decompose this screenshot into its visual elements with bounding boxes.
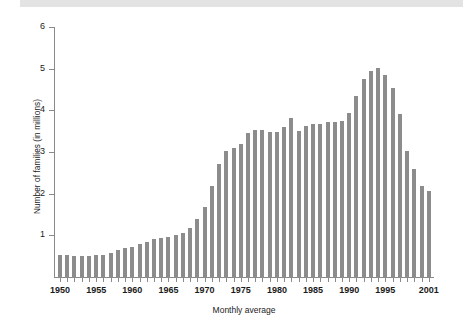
bar: [326, 122, 330, 278]
x-axis-tick-label: 1995: [365, 285, 405, 295]
bar: [282, 127, 286, 278]
x-axis-tick: [226, 278, 227, 282]
x-axis-tick-label: 1960: [112, 285, 152, 295]
bar: [166, 237, 170, 278]
bar: [246, 133, 250, 278]
bar: [123, 248, 127, 278]
x-axis-tick: [96, 278, 97, 282]
x-axis-tick: [89, 278, 90, 282]
bar: [398, 114, 402, 278]
x-axis-tick: [234, 278, 235, 282]
bar: [369, 71, 373, 279]
bar: [391, 88, 395, 278]
x-axis-tick: [255, 278, 256, 282]
x-axis-tick: [125, 278, 126, 282]
x-axis-tick: [371, 278, 372, 282]
x-axis-tick: [306, 278, 307, 282]
x-axis-tick-label: 1950: [40, 285, 80, 295]
x-axis-tick: [147, 278, 148, 282]
x-axis-tick: [197, 278, 198, 282]
x-axis-tick-label: 1970: [185, 285, 225, 295]
x-axis-tick: [82, 278, 83, 282]
x-axis-tick: [284, 278, 285, 282]
x-axis-tick: [291, 278, 292, 282]
x-axis-tick: [74, 278, 75, 282]
bar: [152, 239, 156, 278]
bar: [101, 255, 105, 278]
x-axis-tick: [219, 278, 220, 282]
x-axis-tick: [183, 278, 184, 282]
x-axis-tick: [118, 278, 119, 282]
bar: [217, 164, 221, 278]
bar: [80, 256, 84, 278]
x-axis-tick: [161, 278, 162, 282]
x-axis-tick-label: 1985: [293, 285, 333, 295]
bar: [203, 207, 207, 278]
x-axis-tick-label: 2001: [409, 285, 449, 295]
x-axis-tick: [140, 278, 141, 282]
x-axis-tick: [407, 278, 408, 282]
x-axis-tick: [349, 278, 350, 282]
bar: [224, 151, 228, 278]
bar: [347, 113, 351, 278]
bar: [289, 118, 293, 278]
bar: [362, 79, 366, 278]
bar: [195, 219, 199, 278]
x-axis-tick: [400, 278, 401, 282]
bar: [138, 244, 142, 278]
x-axis-tick: [393, 278, 394, 282]
bar: [145, 242, 149, 278]
x-axis-tick: [132, 278, 133, 282]
bar: [412, 169, 416, 278]
bar: [174, 235, 178, 278]
bar: [260, 130, 264, 278]
bar: [376, 68, 380, 278]
x-axis-tick-label: 1990: [329, 285, 369, 295]
bar: [65, 255, 69, 278]
x-axis-tick: [277, 278, 278, 282]
bar: [318, 124, 322, 278]
x-axis-tick: [111, 278, 112, 282]
bar: [420, 186, 424, 278]
x-axis-tick: [429, 278, 430, 282]
x-axis-tick: [248, 278, 249, 282]
bar: [72, 256, 76, 278]
bar: [87, 256, 91, 279]
x-axis-tick: [241, 278, 242, 282]
bar: [58, 255, 62, 278]
bar: [253, 130, 257, 278]
bar: [275, 132, 279, 278]
x-axis-tick: [270, 278, 271, 282]
x-axis-tick-label: 1955: [76, 285, 116, 295]
x-axis-tick: [378, 278, 379, 282]
bar: [109, 253, 113, 278]
x-axis-tick: [299, 278, 300, 282]
bar: [340, 121, 344, 278]
bar: [354, 96, 358, 278]
x-axis-tick: [385, 278, 386, 282]
x-axis-tick: [176, 278, 177, 282]
x-axis-tick-label: 1975: [221, 285, 261, 295]
x-axis-tick: [356, 278, 357, 282]
bar: [383, 75, 387, 278]
bar: [333, 122, 337, 278]
x-axis-tick-label: 1965: [148, 285, 188, 295]
x-axis-tick: [320, 278, 321, 282]
bar: [181, 233, 185, 278]
x-axis-tick: [205, 278, 206, 282]
x-axis-tick: [335, 278, 336, 282]
bar-series: [0, 0, 463, 278]
x-axis-tick: [364, 278, 365, 282]
x-axis-tick: [154, 278, 155, 282]
x-axis-tick: [168, 278, 169, 282]
x-axis-tick: [190, 278, 191, 282]
x-axis-tick: [60, 278, 61, 282]
bar: [210, 186, 214, 278]
x-axis-tick: [422, 278, 423, 282]
bar: [427, 191, 431, 278]
bar: [268, 132, 272, 278]
x-axis-tick-label: 1980: [257, 285, 297, 295]
bar: [159, 238, 163, 278]
chart-figure: Number of families (in millions) 123456 …: [0, 0, 463, 331]
x-axis-title: Monthly average: [54, 305, 434, 315]
